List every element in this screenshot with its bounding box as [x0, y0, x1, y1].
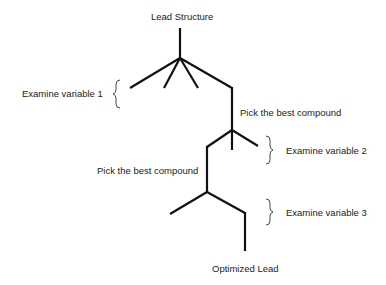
branch-3b — [207, 192, 245, 213]
branch-2c — [207, 130, 232, 147]
brace-variable-3 — [266, 199, 273, 225]
synthesis-tree — [0, 0, 386, 285]
brace-variable-1 — [113, 80, 120, 108]
examine-variable-1-label: Examine variable 1 — [22, 88, 103, 99]
branch-2b — [232, 130, 258, 146]
branch-3a — [170, 192, 207, 214]
examine-variable-3-label: Examine variable 3 — [286, 207, 367, 218]
optimized-lead-label: Optimized Lead — [212, 263, 279, 274]
pick-best-compound-2-label: Pick the best compound — [97, 165, 198, 176]
examine-variable-2-label: Examine variable 2 — [286, 145, 367, 156]
lead-structure-label: Lead Structure — [151, 11, 213, 22]
brace-variable-2 — [266, 136, 273, 164]
pick-best-compound-1-label: Pick the best compound — [240, 107, 341, 118]
